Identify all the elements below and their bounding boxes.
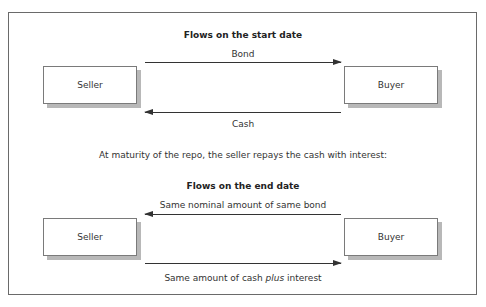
cash-arrow-left — [145, 112, 341, 113]
start-date-title: Flows on the start date — [0, 30, 486, 40]
arrowhead-right-icon — [333, 260, 342, 266]
maturity-description: At maturity of the repo, the seller repa… — [0, 150, 486, 160]
buyer-label: Buyer — [378, 80, 404, 90]
cash-flow-label: Cash — [145, 119, 341, 129]
buyer-label: Buyer — [378, 232, 404, 242]
bond-flow-label: Bond — [145, 49, 341, 59]
bond-arrow-right — [145, 62, 341, 63]
buyer-box-start: Buyer — [344, 66, 438, 104]
cash-repay-label-prefix: Same amount of cash — [164, 273, 265, 283]
end-date-title: Flows on the end date — [0, 181, 486, 191]
arrowhead-left-icon — [144, 211, 153, 217]
seller-box-end: Seller — [43, 218, 137, 256]
seller-box-start: Seller — [43, 66, 137, 104]
bond-return-arrow-left — [145, 214, 341, 215]
cash-repay-label-suffix: interest — [284, 273, 321, 283]
buyer-box-end: Buyer — [344, 218, 438, 256]
cash-repay-label: Same amount of cash plus interest — [125, 273, 361, 283]
arrowhead-right-icon — [333, 59, 342, 65]
arrowhead-left-icon — [144, 109, 153, 115]
cash-repay-label-emphasis: plus — [266, 273, 285, 283]
seller-label: Seller — [77, 80, 103, 90]
bond-return-label: Same nominal amount of same bond — [145, 200, 341, 210]
cash-repay-arrow-right — [145, 263, 341, 264]
seller-label: Seller — [77, 232, 103, 242]
